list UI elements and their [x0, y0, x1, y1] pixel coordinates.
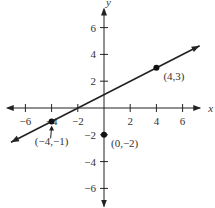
line-arrow-end [191, 46, 199, 52]
y-tick-label: −4 [84, 156, 96, 168]
x-tick-label: 4 [154, 115, 160, 127]
y-tick-label: −2 [84, 129, 96, 141]
x-tick-label: 2 [127, 115, 133, 127]
data-point [49, 118, 55, 124]
y-axis-label: y [105, 0, 111, 8]
x-tick-label: −6 [20, 115, 32, 127]
point-label: (4,3) [163, 70, 184, 83]
data-point [153, 65, 159, 71]
line-series [11, 46, 200, 142]
point-label: (−4,−1) [35, 135, 69, 148]
data-point [101, 132, 107, 138]
y-tick-label: −6 [84, 182, 96, 194]
line-arrow-start [11, 136, 19, 142]
x-axis-left-arrow [6, 105, 14, 111]
y-tick-label: 4 [91, 48, 97, 60]
y-tick-label: 6 [91, 22, 97, 34]
y-axis-top-arrow [101, 8, 107, 16]
x-tick-label: 6 [180, 115, 186, 127]
y-tick-label: 2 [91, 75, 97, 87]
x-axis-label: x [207, 102, 213, 114]
coordinate-plot: −6−4−2246−6−4−2246 (4,3)(−4,−1)(0,−2) x … [0, 0, 215, 208]
point-label: (0,−2) [111, 137, 139, 150]
x-tick-label: −2 [72, 115, 84, 127]
